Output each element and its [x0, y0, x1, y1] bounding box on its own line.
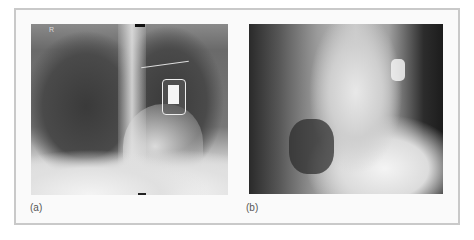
- side-marker: R: [49, 26, 54, 33]
- implanted-device: [391, 59, 405, 81]
- chest-xray-pa-image: R: [31, 24, 228, 195]
- panel-label-a: (a): [30, 202, 42, 213]
- implanted-device: [162, 79, 186, 115]
- chest-xray-lateral-image: [249, 24, 443, 194]
- bottom-marker: [138, 193, 146, 195]
- diaphragm: [31, 150, 228, 195]
- lung-lucency: [289, 119, 334, 174]
- top-marker: [135, 24, 145, 27]
- panel-label-b: (b): [246, 202, 258, 213]
